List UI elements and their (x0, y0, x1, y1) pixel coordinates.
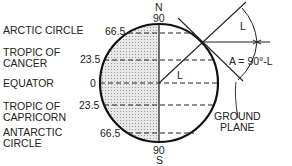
equator-label: EQUATOR (3, 78, 54, 89)
formula-label: A = 90°-L (229, 56, 273, 67)
antarctic-circle-label: ANTARCTIC CIRCLE (3, 127, 62, 149)
lat-0: 0 (90, 78, 96, 89)
center-angle-label: L (177, 70, 183, 81)
lat-23-south: 23.5 (79, 100, 99, 111)
lat-66-north: 66.5 (105, 26, 125, 37)
tropic-cancer-label: TROPIC OF CANCER (3, 47, 60, 69)
south-label: S (156, 155, 163, 166)
lat-23-north: 23.5 (80, 54, 100, 65)
top-angle-label: L (240, 21, 246, 32)
ground-plane-label: GROUND PLANE (214, 111, 261, 133)
latitude-diagram: ARCTIC CIRCLE TROPIC OF CANCER EQUATOR T… (0, 0, 292, 166)
tropic-capricorn-label: TROPIC OF CAPRICORN (3, 101, 66, 123)
lat-66-south: 66.5 (100, 128, 120, 139)
arctic-circle-label: ARCTIC CIRCLE (3, 25, 84, 36)
north-90-label: 90 (153, 13, 165, 24)
